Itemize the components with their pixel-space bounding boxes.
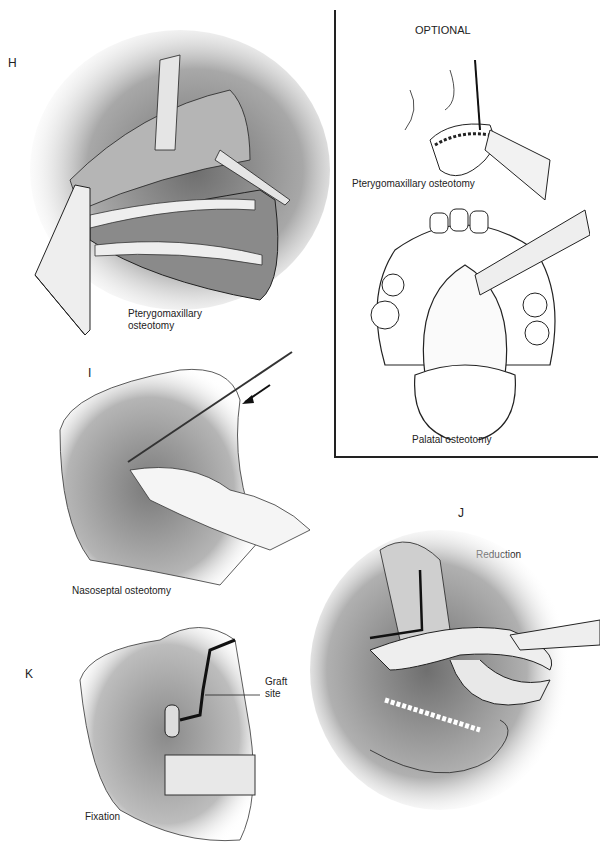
illustration-j-reduction: [310, 520, 600, 810]
illustration-optional-palatal: [355, 205, 590, 440]
optional-title: OPTIONAL: [415, 24, 471, 36]
panel-letter-j: J: [458, 506, 464, 520]
caption-optional-palatal: Palatal osteotomy: [412, 434, 492, 446]
panel-letter-k: K: [25, 667, 33, 681]
caption-h-line1: Pterygomaxillary: [128, 308, 202, 320]
caption-optional-pterygomaxillary: Pterygomaxillary osteotomy: [352, 178, 475, 190]
callout-graft-site-line2: site: [265, 688, 281, 700]
caption-h-line2: osteotomy: [128, 320, 174, 332]
callout-graft-site-line1: Graft: [265, 676, 287, 688]
illustration-h-pterygomaxillary-lateral: [0, 0, 330, 340]
caption-k: Fixation: [85, 811, 120, 823]
caption-i: Nasoseptal osteotomy: [72, 585, 171, 597]
illustration-i-nasoseptal: [30, 340, 330, 590]
